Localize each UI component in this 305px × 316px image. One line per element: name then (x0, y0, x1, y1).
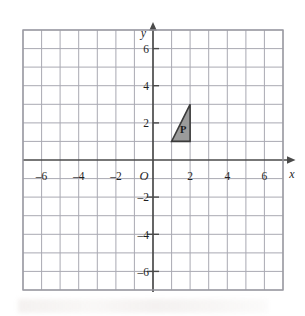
y-tick-label: –4 (137, 229, 150, 241)
y-tick-label: 2 (143, 117, 149, 129)
y-tick-label: –6 (137, 266, 150, 278)
x-tick-label: 6 (262, 170, 268, 182)
y-tick-label: 4 (143, 80, 149, 92)
x-tick-label: 4 (224, 170, 230, 182)
y-tick-label: –2 (137, 191, 150, 203)
triangle-p-label: P (180, 124, 187, 135)
coordinate-grid-figure: P y x O –6 –4 –2 2 4 6 6 4 2 –2 –4 –6 (0, 0, 305, 316)
x-tick-label: 2 (187, 170, 193, 182)
y-tick-label: 6 (143, 43, 149, 55)
y-axis-label: y (140, 26, 147, 40)
x-tick-label: –2 (109, 170, 122, 182)
origin-label: O (139, 169, 148, 183)
x-tick-label: –6 (35, 170, 48, 182)
x-tick-label: –4 (72, 170, 85, 182)
x-axis-label: x (288, 167, 295, 181)
